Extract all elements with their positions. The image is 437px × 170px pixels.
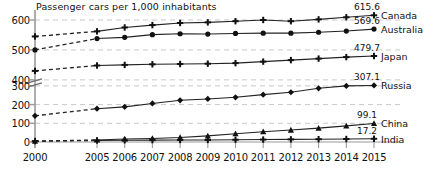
x-tick-label-2014: 2014: [334, 152, 359, 163]
data-point-marker-plus: [205, 61, 211, 67]
series-end-value-india: 17.2: [357, 126, 377, 136]
plus-marker-v: [262, 17, 264, 23]
plus-marker-v: [290, 136, 292, 142]
plus-marker-v: [373, 136, 375, 142]
plus-marker-v: [235, 60, 237, 66]
data-point-marker-diamond: [343, 83, 349, 89]
series-canada: [32, 12, 377, 40]
series-label-china: China: [381, 118, 408, 129]
data-point-marker-circle: [94, 36, 99, 41]
data-point-marker-plus: [371, 53, 377, 59]
plus-marker-v: [345, 14, 347, 20]
diamond-marker: [32, 113, 38, 119]
data-point-marker-circle: [178, 31, 183, 36]
diamond-marker: [205, 96, 211, 102]
series-dashed-segment: [35, 39, 97, 50]
data-point-marker-diamond: [288, 89, 294, 95]
circle-marker: [122, 35, 127, 40]
data-point-marker-plus: [177, 20, 183, 26]
data-point-marker-circle: [122, 35, 127, 40]
series-japan: [32, 53, 377, 74]
plus-marker-v: [96, 62, 98, 68]
data-point-marker-diamond: [205, 96, 211, 102]
plus-marker-v: [318, 16, 320, 22]
plus-marker-v: [318, 55, 320, 61]
data-point-marker-plus: [343, 136, 349, 142]
diamond-marker: [260, 92, 266, 98]
x-tick-label-2012: 2012: [279, 152, 304, 163]
data-point-marker-circle: [233, 31, 238, 36]
data-point-marker-plus: [232, 18, 238, 24]
circle-marker: [178, 31, 183, 36]
plus-marker-v: [207, 19, 209, 25]
data-point-marker-diamond: [149, 100, 155, 106]
series-end-value-canada: 615.6: [354, 2, 380, 12]
circle-marker: [261, 31, 266, 36]
plus-marker-v: [151, 137, 153, 143]
plus-marker-v: [179, 61, 181, 67]
plus-marker-v: [124, 62, 126, 68]
series-dashed-segment: [35, 109, 97, 116]
plus-marker-v: [34, 68, 36, 74]
circle-marker: [344, 28, 349, 33]
circle-marker: [316, 30, 321, 35]
series-dashed-segment: [35, 31, 97, 36]
data-point-marker-circle: [344, 28, 349, 33]
data-point-marker-circle: [32, 47, 37, 52]
plus-marker-v: [96, 28, 98, 34]
data-point-marker-diamond: [94, 106, 100, 112]
data-point-marker-plus: [149, 22, 155, 28]
x-tick-label-2015: 2015: [362, 152, 387, 163]
data-point-marker-plus: [371, 136, 377, 142]
x-tick-label-2006: 2006: [112, 152, 137, 163]
series-end-value-japan: 479.7: [354, 43, 380, 53]
data-point-marker-diamond: [32, 113, 38, 119]
plus-marker-v: [151, 61, 153, 67]
data-point-marker-plus: [315, 16, 321, 22]
data-point-marker-circle: [150, 32, 155, 37]
chart-container: Passenger cars per 1,000 inhabitants 010…: [0, 0, 437, 170]
plus-marker-v: [151, 22, 153, 28]
diamond-marker: [288, 89, 294, 95]
series-label-india: India: [381, 133, 404, 144]
circle-marker: [233, 31, 238, 36]
plus-marker-v: [373, 53, 375, 59]
diamond-marker: [232, 94, 238, 100]
diamond-marker: [94, 106, 100, 112]
plus-marker-v: [96, 137, 98, 143]
data-point-marker-plus: [94, 28, 100, 34]
diamond-marker: [149, 100, 155, 106]
circle-marker: [371, 26, 376, 31]
series-label-japan: Japan: [381, 51, 408, 62]
x-tick-label-2007: 2007: [140, 152, 165, 163]
plus-marker-v: [179, 137, 181, 143]
data-point-marker-circle: [205, 31, 210, 36]
circle-marker: [94, 36, 99, 41]
plus-marker-v: [34, 33, 36, 39]
data-point-marker-plus: [32, 33, 38, 39]
plus-marker-v: [318, 136, 320, 142]
plus-marker-v: [207, 137, 209, 143]
series-russia: [32, 82, 377, 119]
data-point-marker-diamond: [371, 82, 377, 88]
x-tick-label-2010: 2010: [223, 152, 248, 163]
x-tick-label-2000: 2000: [23, 152, 48, 163]
data-point-marker-circle: [371, 26, 376, 31]
plus-marker-v: [345, 54, 347, 60]
x-tick-label-2013: 2013: [306, 152, 331, 163]
x-tick-label-2005: 2005: [85, 152, 110, 163]
plus-marker-v: [34, 138, 36, 144]
series-india: [32, 136, 377, 145]
data-point-marker-plus: [149, 61, 155, 67]
series-end-value-russia: 307.1: [354, 72, 380, 82]
plus-marker-v: [124, 24, 126, 30]
circle-marker: [32, 47, 37, 52]
data-point-marker-plus: [94, 62, 100, 68]
plus-marker-v: [262, 58, 264, 64]
data-point-marker-plus: [94, 137, 100, 143]
data-point-marker-plus: [122, 62, 128, 68]
data-point-marker-circle: [288, 31, 293, 36]
data-point-marker-plus: [177, 61, 183, 67]
series-end-value-australia: 569.6: [354, 16, 380, 26]
data-point-marker-circle: [316, 30, 321, 35]
